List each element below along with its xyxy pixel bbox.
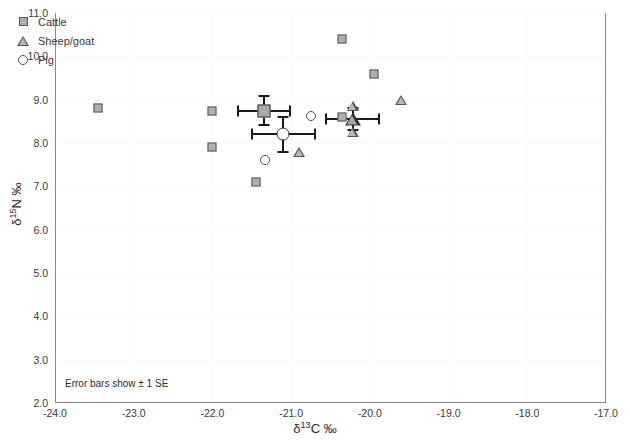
x-axis-tick-label: -21.0 xyxy=(279,407,303,419)
legend: CattleSheep/goatPig xyxy=(12,12,94,69)
data-point-cattle xyxy=(94,104,103,113)
plot-area xyxy=(55,13,606,403)
error-bar-cap xyxy=(289,105,291,116)
y-axis-title-delta: δ xyxy=(9,219,24,226)
legend-item-label: Pig xyxy=(38,54,54,66)
error-bar-cap xyxy=(237,105,239,116)
y-axis-tick-label: 5.0 xyxy=(0,267,48,279)
triangle-icon xyxy=(12,36,34,46)
gridline-horizontal xyxy=(56,56,605,57)
x-axis-tick-label: -23.0 xyxy=(122,407,146,419)
y-axis-tick-label: 9.0 xyxy=(0,94,48,106)
x-axis-tick-label: -18.0 xyxy=(515,407,539,419)
circle-icon xyxy=(12,55,34,65)
data-point-cattle xyxy=(251,178,260,187)
gridline-horizontal xyxy=(56,230,605,231)
x-axis-title-superscript: 13 xyxy=(301,420,311,430)
mean-marker-pig xyxy=(277,128,290,141)
gridline-horizontal xyxy=(56,100,605,101)
error-bar-cap xyxy=(278,116,289,118)
x-axis-tick-label: -17.0 xyxy=(594,407,618,419)
gridline-vertical xyxy=(606,14,607,402)
data-point-cattle xyxy=(208,143,217,152)
y-axis-tick-label: 2.0 xyxy=(0,397,48,409)
gridline-horizontal xyxy=(56,186,605,187)
legend-item-sheep-goat[interactable]: Sheep/goat xyxy=(12,31,94,50)
legend-item-pig[interactable]: Pig xyxy=(12,50,94,69)
square-icon xyxy=(12,17,34,26)
x-axis-tick-label: -20.0 xyxy=(358,407,382,419)
gridline-vertical xyxy=(212,14,213,402)
error-bar-cap xyxy=(378,114,380,125)
data-point-cattle xyxy=(369,69,378,78)
y-axis-tick-label: 4.0 xyxy=(0,310,48,322)
x-axis-title-rest: C ‰ xyxy=(311,421,337,436)
data-point-sheep-goat xyxy=(347,127,359,137)
x-axis-title: δ13C ‰ xyxy=(0,420,630,436)
legend-item-label: Cattle xyxy=(38,16,67,28)
data-point-sheep-goat xyxy=(293,147,305,157)
data-point-cattle xyxy=(338,35,347,44)
scatter-chart: 2.03.04.05.06.07.08.09.010.011.0-24.0-23… xyxy=(0,0,630,447)
error-bar-cap xyxy=(314,129,316,140)
data-point-pig xyxy=(306,111,316,121)
legend-item-cattle[interactable]: Cattle xyxy=(12,12,94,31)
x-axis-tick-label: -19.0 xyxy=(437,407,461,419)
x-axis-tick-label: -22.0 xyxy=(200,407,224,419)
x-axis-title-delta: δ xyxy=(293,421,300,436)
error-bar-cap xyxy=(325,114,327,125)
x-axis-tick-label: -24.0 xyxy=(43,407,67,419)
mean-marker-cattle xyxy=(257,104,270,117)
error-bar-note: Error bars show ± 1 SE xyxy=(65,378,168,389)
gridline-horizontal xyxy=(56,360,605,361)
data-point-cattle xyxy=(208,106,217,115)
gridline-vertical xyxy=(134,14,135,402)
y-axis-tick-label: 3.0 xyxy=(0,354,48,366)
y-axis-title: δ15N ‰ xyxy=(8,144,24,264)
data-point-sheep-goat xyxy=(347,101,359,111)
data-point-pig xyxy=(260,155,270,165)
y-axis-title-rest: N ‰ xyxy=(9,183,24,209)
gridline-vertical xyxy=(291,14,292,402)
gridline-horizontal xyxy=(56,13,605,14)
error-bar-cap xyxy=(258,95,269,97)
error-bar-cap xyxy=(251,129,253,140)
y-axis-title-superscript: 15 xyxy=(8,209,18,219)
error-bar-cap xyxy=(258,124,269,126)
error-bar-cap xyxy=(278,151,289,153)
data-point-sheep-goat xyxy=(395,95,407,105)
gridline-vertical xyxy=(527,14,528,402)
gridline-horizontal xyxy=(56,143,605,144)
gridline-horizontal xyxy=(56,316,605,317)
gridline-vertical xyxy=(449,14,450,402)
legend-item-label: Sheep/goat xyxy=(38,35,94,47)
mean-marker-sheep-goat xyxy=(345,113,361,126)
gridline-horizontal xyxy=(56,273,605,274)
